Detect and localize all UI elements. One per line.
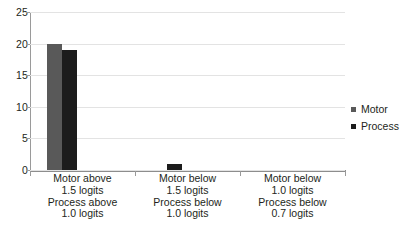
y-axis-tick-label: 15 [2,70,28,80]
legend-item-motor[interactable]: Motor [351,101,413,118]
x-axis-tick-mark [240,171,241,176]
category-label-line: 1.5 logits [30,185,135,197]
plot-area [30,12,345,170]
category-label-line: 1.0 logits [30,208,135,220]
gridline [30,12,345,13]
y-axis-tick-label: 25 [2,7,28,17]
category-label-line: 0.7 logits [240,208,345,220]
y-axis-tick-mark [26,75,30,76]
gridline [30,107,345,108]
legend-item-process[interactable]: Process [351,118,413,135]
legend-swatch-icon [351,124,356,129]
legend-item-label: Process [361,121,399,132]
chart-legend: MotorProcess [351,101,413,135]
legend-item-label: Motor [361,104,388,115]
x-axis-category-label-1: Motor below1.5 logitsProcess below1.0 lo… [135,173,240,220]
y-axis-tick-mark [26,107,30,108]
y-axis-tick-labels: 0510152025 [0,0,28,242]
category-label-line: 1.0 logits [135,208,240,220]
x-axis-tick-mark [345,171,346,176]
y-axis-tick-label: 5 [2,133,28,143]
y-axis-tick-mark [26,44,30,45]
y-axis-tick-mark [26,12,30,13]
category-label-line: 1.0 logits [240,185,345,197]
bar-process-0 [62,50,77,170]
gridline [30,170,345,171]
x-axis-category-labels: Motor above1.5 logitsProcess above1.0 lo… [30,173,345,235]
gridline [30,44,345,45]
y-axis-tick-label: 10 [2,102,28,112]
y-axis-tick-label: 20 [2,39,28,49]
x-axis-category-label-0: Motor above1.5 logitsProcess above1.0 lo… [30,173,135,220]
gridline [30,138,345,139]
y-axis-tick-label: 0 [2,165,28,175]
bar-chart-figure: 0510152025 Motor above1.5 logitsProcess … [0,0,413,242]
y-axis-tick-mark [26,138,30,139]
x-axis-category-label-2: Motor below1.0 logitsProcess below0.7 lo… [240,173,345,220]
x-axis-tick-mark [30,171,31,176]
bar-motor-0 [47,44,62,170]
bar-process-1 [167,164,182,170]
gridline [30,75,345,76]
legend-swatch-icon [351,107,356,112]
x-axis-tick-mark [135,171,136,176]
category-label-line: 1.5 logits [135,185,240,197]
footer-text-artifact [22,234,322,242]
